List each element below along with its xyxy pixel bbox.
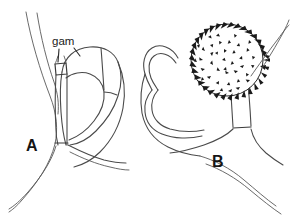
gam-label: gam: [52, 35, 74, 47]
panel-label-b: B: [212, 153, 224, 170]
figure-illustration: gam A: [0, 0, 290, 221]
panel-label-a: A: [26, 137, 38, 154]
figure-canvas: gam A: [0, 0, 290, 221]
